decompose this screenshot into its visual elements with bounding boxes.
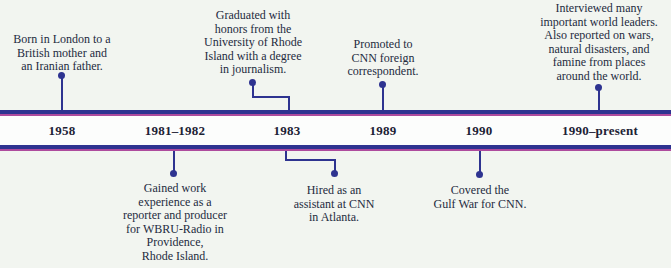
connector-line-1983-top-v2 bbox=[288, 96, 290, 110]
connector-line-1989 bbox=[382, 85, 384, 110]
connector-line-1990-present bbox=[598, 88, 600, 110]
connector-dot-1983-bottom bbox=[331, 170, 338, 177]
connector-line-1958 bbox=[61, 76, 63, 110]
connector-line-1983-bottom-h bbox=[285, 159, 336, 161]
year-label-1958: 1958 bbox=[49, 123, 76, 139]
year-label-1990-present: 1990–present bbox=[562, 123, 638, 139]
connector-dot-1990 bbox=[476, 171, 483, 178]
note-promoted-cnn: Promoted to CNN foreign correspondent. bbox=[348, 38, 419, 79]
connector-dot-1981-1982 bbox=[170, 170, 177, 177]
year-label-1983: 1983 bbox=[274, 123, 301, 139]
year-label-1990: 1990 bbox=[466, 123, 493, 139]
note-interviewed-leaders: Interviewed many important world leaders… bbox=[540, 2, 658, 83]
year-label-1989: 1989 bbox=[370, 123, 397, 139]
note-graduated: Graduated with honors from the Universit… bbox=[204, 9, 302, 77]
note-gained-work: Gained work experience as a reporter and… bbox=[123, 182, 227, 263]
timeline-bottom-bar bbox=[0, 145, 671, 151]
year-label-1981-1982: 1981–1982 bbox=[145, 123, 205, 139]
note-born-london: Born in London to a British mother and a… bbox=[13, 33, 110, 74]
timeline-canvas: Born in London to a British mother and a… bbox=[0, 0, 671, 268]
connector-line-1990 bbox=[479, 151, 481, 173]
note-covered-gulf-war: Covered the Gulf War for CNN. bbox=[434, 184, 527, 211]
note-hired-cnn: Hired as an assistant at CNN in Atlanta. bbox=[294, 184, 375, 225]
timeline-years-band: 1958 1981–1982 1983 1989 1990 1990–prese… bbox=[0, 116, 671, 145]
connector-line-1983-top-h bbox=[252, 96, 290, 98]
